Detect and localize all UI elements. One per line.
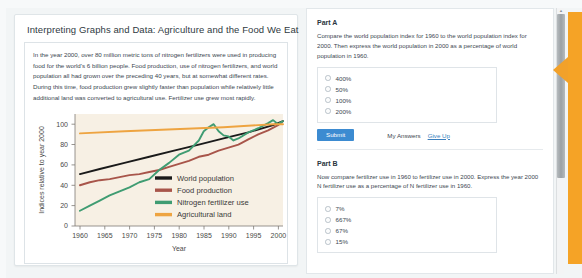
radio-button-icon[interactable] (325, 217, 331, 223)
left-pointing-arrow-icon (553, 57, 568, 83)
option-label: 667% (336, 216, 352, 223)
chart-svg: 0 20 40 60 80 100 Indices relative to ye… (33, 110, 288, 262)
scrollbar-thumb[interactable] (557, 14, 565, 178)
part-b-heading: Part B (317, 160, 543, 167)
svg-text:1975: 1975 (147, 232, 163, 239)
submit-button[interactable]: Submit (317, 129, 354, 141)
radio-button-icon[interactable] (325, 206, 331, 212)
svg-text:1995: 1995 (246, 232, 262, 239)
my-answers-link[interactable]: My Answers (387, 132, 420, 139)
y-axis-label: Indices relative to year 2000 (38, 126, 46, 214)
svg-text:100: 100 (56, 121, 68, 128)
svg-text:40: 40 (60, 182, 68, 189)
option-row[interactable]: 100% (325, 95, 489, 106)
question-part-a: Part A Compare the world population inde… (307, 9, 553, 150)
window-left-edge (0, 0, 6, 278)
svg-text:1960: 1960 (72, 232, 88, 239)
radio-button-icon[interactable] (325, 108, 331, 114)
lesson-content-panel: In the year 2000, over 80 million metric… (24, 42, 288, 264)
part-a-options: 400% 50% 100% 200% (317, 67, 497, 123)
svg-text:1980: 1980 (171, 232, 187, 239)
option-label: 7% (336, 205, 345, 212)
svg-text:80: 80 (60, 141, 68, 148)
option-label: 200% (336, 108, 352, 115)
give-up-link[interactable]: Give Up (428, 132, 450, 139)
svg-text:1990: 1990 (221, 232, 237, 239)
option-label: 15% (336, 238, 348, 245)
radio-button-icon[interactable] (325, 75, 331, 81)
part-a-prompt: Compare the world population index for 1… (317, 31, 543, 61)
legend-label: Agricultural land (177, 211, 231, 220)
option-row[interactable]: 7% (325, 203, 489, 214)
part-b-prompt: Now compare fertilizer use in 1960 to fe… (317, 172, 543, 192)
svg-text:0: 0 (64, 222, 68, 229)
part-a-actions: Submit My Answers Give Up (317, 129, 543, 142)
radio-button-icon[interactable] (325, 239, 331, 245)
vertical-scrollbar[interactable]: ▲ (556, 8, 564, 274)
legend-label: Food production (177, 186, 232, 195)
questions-panel: Part A Compare the world population inde… (306, 8, 554, 274)
page-background: Interpreting Graphs and Data: Agricultur… (0, 0, 582, 278)
question-part-b: Part B Now compare fertilizer use in 196… (307, 150, 553, 254)
window-top-edge (0, 0, 582, 8)
legend-label: World population (177, 174, 234, 183)
option-label: 400% (336, 75, 352, 82)
svg-text:20: 20 (60, 202, 68, 209)
orange-highlight-bar (568, 12, 582, 264)
lesson-card: Interpreting Graphs and Data: Agricultur… (14, 14, 298, 266)
svg-text:1970: 1970 (122, 232, 138, 239)
scroll-up-arrow-icon[interactable]: ▲ (558, 8, 564, 13)
x-axis-label: Year (172, 245, 187, 252)
option-row[interactable]: 200% (325, 106, 489, 117)
svg-text:1985: 1985 (196, 232, 212, 239)
option-label: 67% (336, 227, 348, 234)
option-row[interactable]: 15% (325, 236, 489, 247)
x-axis: 1960 1965 1970 1975 1980 1985 1990 (72, 226, 286, 239)
svg-text:2000: 2000 (271, 232, 287, 239)
legend-label: Nitrogen fertilizer use (177, 198, 249, 207)
radio-button-icon[interactable] (325, 86, 331, 92)
intro-paragraph: In the year 2000, over 80 million metric… (33, 50, 279, 103)
option-row[interactable]: 400% (325, 73, 489, 84)
page-title: Interpreting Graphs and Data: Agricultur… (15, 15, 297, 42)
svg-text:60: 60 (60, 162, 68, 169)
y-axis: 0 20 40 60 80 100 (56, 121, 75, 229)
option-label: 100% (336, 97, 352, 104)
option-row[interactable]: 50% (325, 84, 489, 95)
option-label: 50% (336, 86, 348, 93)
part-a-heading: Part A (317, 19, 543, 26)
option-row[interactable]: 67% (325, 225, 489, 236)
radio-button-icon[interactable] (325, 97, 331, 103)
svg-text:1965: 1965 (97, 232, 113, 239)
part-b-options: 7% 667% 67% 15% (317, 197, 497, 253)
radio-button-icon[interactable] (325, 228, 331, 234)
indices-line-chart: 0 20 40 60 80 100 Indices relative to ye… (33, 110, 288, 262)
option-row[interactable]: 667% (325, 214, 489, 225)
